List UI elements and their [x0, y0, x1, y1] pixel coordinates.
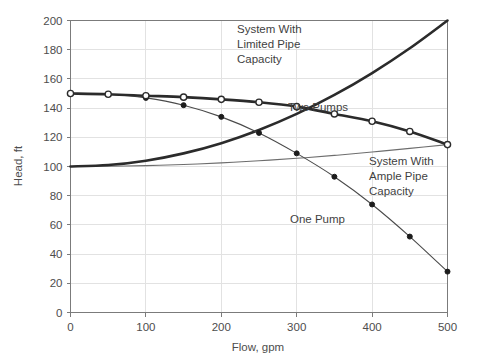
- x-tick-label: 100: [136, 321, 155, 333]
- y-tick-label: 100: [43, 161, 62, 173]
- x-tick-label: 500: [438, 321, 457, 333]
- data-point-two-pumps: [105, 91, 111, 97]
- y-tick-label: 80: [50, 190, 63, 202]
- x-tick-label: 400: [363, 321, 382, 333]
- x-tick-label: 200: [212, 321, 231, 333]
- data-point-one-pump: [445, 269, 450, 274]
- annotation-system-limited-line3: Capacity: [237, 53, 282, 65]
- annotation-two-pumps: Two Pumps: [288, 101, 348, 113]
- annotation-one-pump-label: One Pump: [290, 213, 345, 225]
- annotation-system-ample-line3: Capacity: [369, 185, 414, 197]
- data-point-two-pumps: [444, 142, 450, 148]
- pump-system-curve-chart: 0100200300400500 02040608010012014016018…: [0, 0, 480, 362]
- y-tick-label: 200: [43, 15, 62, 27]
- data-point-two-pumps: [256, 99, 262, 105]
- data-point-two-pumps: [407, 128, 413, 134]
- annotation-system-limited-line1: System With: [237, 23, 302, 35]
- data-point-one-pump: [219, 114, 224, 119]
- x-tick-label: 0: [67, 321, 73, 333]
- data-point-one-pump: [294, 151, 299, 156]
- annotation-two-pumps-label: Two Pumps: [288, 101, 348, 113]
- data-point-one-pump: [370, 202, 375, 207]
- data-point-one-pump: [257, 130, 262, 135]
- annotation-system-ample-line1: System With: [369, 155, 434, 167]
- y-tick-label: 160: [43, 73, 62, 85]
- data-point-one-pump: [181, 103, 186, 108]
- data-point-one-pump: [332, 174, 337, 179]
- data-point-two-pumps: [143, 93, 149, 99]
- data-point-two-pumps: [67, 90, 73, 96]
- x-axis-title: Flow, gpm: [232, 341, 284, 353]
- annotation-one-pump: One Pump: [290, 213, 345, 225]
- x-tick-label: 300: [287, 321, 306, 333]
- chart-canvas: 0100200300400500 02040608010012014016018…: [0, 0, 480, 362]
- data-point-two-pumps: [218, 96, 224, 102]
- y-axis-title: Head, ft: [12, 145, 24, 186]
- y-tick-label: 60: [50, 219, 63, 231]
- data-point-two-pumps: [369, 118, 375, 124]
- data-point-two-pumps: [181, 94, 187, 100]
- y-tick-label: 20: [50, 277, 63, 289]
- data-point-one-pump: [407, 234, 412, 239]
- annotation-system-limited-line2: Limited Pipe: [237, 38, 300, 50]
- y-tick-label: 0: [56, 307, 62, 319]
- y-tick-label: 180: [43, 44, 62, 56]
- annotation-system-ample-line2: Ample Pipe: [369, 170, 428, 182]
- y-tick-label: 120: [43, 131, 62, 143]
- y-tick-label: 40: [50, 248, 63, 260]
- y-tick-label: 140: [43, 102, 62, 114]
